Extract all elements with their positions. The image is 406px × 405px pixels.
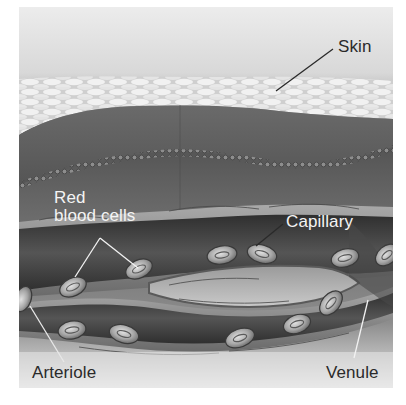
label-red-blood-cells-line2: blood cells — [54, 207, 135, 225]
label-arteriole: Arteriole — [32, 364, 96, 382]
label-skin: Skin — [338, 38, 371, 56]
label-capillary: Capillary — [286, 213, 353, 231]
label-red-blood-cells-line1: Red — [54, 189, 86, 207]
label-venule: Venule — [326, 364, 379, 382]
diagram-stage: Skin Red blood cells Capillary Arteriole… — [0, 0, 406, 405]
